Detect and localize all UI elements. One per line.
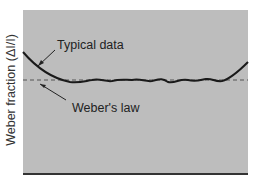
webers-law-label: Weber's law: [72, 101, 139, 115]
typical-data-label: Typical data: [57, 38, 124, 52]
chart-lines: [0, 0, 253, 183]
typical-data-curve: [23, 52, 248, 82]
